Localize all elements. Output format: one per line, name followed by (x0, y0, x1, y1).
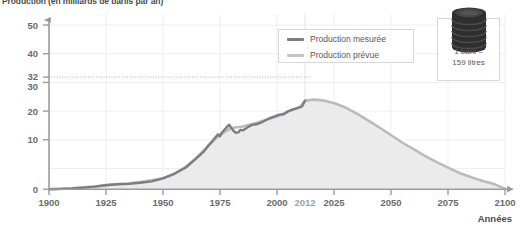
barrel-caption-line1: 1 baril = (437, 46, 500, 57)
legend-swatch-forecast (287, 54, 304, 57)
y-tick-50: 50 (27, 20, 38, 31)
y-axis-tick-labels: 50 40 32 30 20 10 0 (27, 20, 38, 195)
x-tick-2000: 2000 (266, 197, 287, 208)
barrel-caption-line2: 159 litres (437, 57, 500, 68)
x-tick-1925: 1925 (95, 197, 117, 208)
y-tick-40: 40 (27, 48, 38, 59)
legend-item-measured: Production mesurée (279, 31, 413, 47)
x-tick-1950: 1950 (152, 197, 173, 208)
x-tick-1900: 1900 (38, 197, 59, 208)
y-tick-30: 30 (27, 81, 38, 92)
legend-swatch-measured (287, 38, 304, 41)
x-tick-2025: 2025 (323, 197, 345, 208)
x-axis-label: Années (478, 213, 512, 224)
y-tick-10: 10 (27, 134, 38, 145)
barrel-callout-caption: 1 baril = 159 litres (437, 46, 500, 68)
x-tick-2075: 2075 (437, 197, 459, 208)
x-tick-2012: 2012 (294, 197, 315, 208)
y-tick-20: 20 (27, 106, 38, 117)
x-tick-2050: 2050 (380, 197, 401, 208)
chart-legend: Production mesurée Production prévue (278, 29, 414, 63)
x-axis-tick-labels: 1900 1925 1950 1975 2000 2012 2025 2050 … (38, 197, 515, 208)
oil-production-chart: Production (en milliards de barils par a… (0, 0, 520, 229)
y-tick-0: 0 (33, 184, 38, 195)
legend-label-measured: Production mesurée (310, 35, 386, 44)
x-tick-1975: 1975 (209, 197, 231, 208)
legend-label-forecast: Production prévue (310, 51, 379, 60)
x-axis (49, 189, 512, 195)
x-tick-2100: 2100 (494, 197, 515, 208)
legend-item-forecast: Production prévue (279, 47, 413, 63)
y-axis (43, 20, 49, 190)
